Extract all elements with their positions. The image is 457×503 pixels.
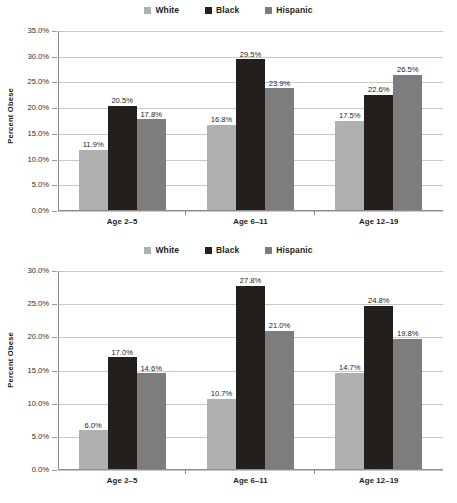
bar-value-label: 22.6% <box>368 86 390 94</box>
y-tick-label: 5.0% <box>14 433 49 441</box>
y-tick-label: 30.0% <box>14 267 49 275</box>
tick-mark <box>52 108 57 109</box>
bar-black-2[interactable]: 27.8% <box>236 286 265 470</box>
tick-mark <box>52 304 57 305</box>
bar-group-1: 11.9%20.5%17.8% <box>58 31 186 211</box>
bar-value-label: 23.9% <box>269 80 291 88</box>
tick-mark <box>52 57 57 58</box>
legend-swatch-icon <box>205 247 212 254</box>
bar-white-2[interactable]: 10.7% <box>207 399 236 470</box>
bar-hispanic-3[interactable]: 26.5% <box>393 75 422 211</box>
plot-area-top: 35.0%30.0%25.0%20.0%15.0%10.0%5.0%0.0%11… <box>14 31 443 211</box>
tick-mark <box>52 271 57 272</box>
tick-mark <box>52 470 57 471</box>
bar-value-label: 27.8% <box>240 277 262 285</box>
legend-label: White <box>155 246 179 255</box>
x-axis-line <box>58 469 443 470</box>
bar-value-label: 16.8% <box>211 116 233 124</box>
tick-mark <box>52 404 57 405</box>
legend-label: Black <box>216 246 239 255</box>
legend-top: WhiteBlackHispanic <box>0 6 457 15</box>
tick-mark <box>52 82 57 83</box>
bar-black-3[interactable]: 24.8% <box>364 306 393 471</box>
tick-mark <box>52 134 57 135</box>
y-tick-label: 15.0% <box>14 367 49 375</box>
tick-mark <box>52 437 57 438</box>
bar-group-2: 10.7%27.8%21.0% <box>186 271 314 470</box>
y-tick-label: 25.0% <box>14 79 49 87</box>
legend-item-hispanic[interactable]: Hispanic <box>265 6 312 15</box>
x-tick-label: Age 6–11 <box>186 218 314 226</box>
bar-group-2: 16.8%29.5%23.9% <box>186 31 314 211</box>
bar-groups: 11.9%20.5%17.8%16.8%29.5%23.9%17.5%22.6%… <box>58 31 443 211</box>
chart-top: WhiteBlackHispanic Percent Obese 35.0%30… <box>0 0 457 245</box>
legend-item-black[interactable]: Black <box>205 246 239 255</box>
y-tick-label: 20.0% <box>14 104 49 112</box>
x-tick-label: Age 12–19 <box>315 218 443 226</box>
y-tick-label: 30.0% <box>14 53 49 61</box>
legend-item-black[interactable]: Black <box>205 6 239 15</box>
bar-white-3[interactable]: 17.5% <box>335 121 364 211</box>
legend-bottom: WhiteBlackHispanic <box>0 246 457 255</box>
gridline <box>58 470 443 471</box>
legend-item-white[interactable]: White <box>144 246 179 255</box>
y-tick-label: 0.0% <box>14 466 49 474</box>
bar-value-label: 11.9% <box>83 141 104 149</box>
legend-item-hispanic[interactable]: Hispanic <box>265 246 312 255</box>
legend-label: Hispanic <box>276 6 312 15</box>
y-tick-label: 5.0% <box>14 181 49 189</box>
y-axis-line <box>58 271 59 470</box>
legend-swatch-icon <box>265 247 272 254</box>
bar-black-3[interactable]: 22.6% <box>364 95 393 211</box>
legend-swatch-icon <box>144 247 151 254</box>
x-tick-label: Age 12–19 <box>315 477 443 485</box>
legend-item-white[interactable]: White <box>144 6 179 15</box>
chart-bottom: WhiteBlackHispanic Percent Obese 30.0%25… <box>0 240 457 503</box>
y-tick-label: 15.0% <box>14 130 49 138</box>
bar-white-2[interactable]: 16.8% <box>207 125 236 211</box>
bar-value-label: 10.7% <box>211 390 233 398</box>
y-tick-label: 0.0% <box>14 207 49 215</box>
bar-black-2[interactable]: 29.5% <box>236 59 265 211</box>
bar-white-1[interactable]: 11.9% <box>79 150 108 211</box>
y-tick-label: 10.0% <box>14 400 49 408</box>
x-axis-line <box>58 210 443 211</box>
bar-black-1[interactable]: 20.5% <box>108 106 137 211</box>
gridline <box>58 211 443 212</box>
bar-value-label: 29.5% <box>240 51 262 59</box>
y-tick-label: 25.0% <box>14 300 49 308</box>
bar-value-label: 20.5% <box>111 97 133 105</box>
y-tick-label: 20.0% <box>14 334 49 342</box>
bar-black-1[interactable]: 17.0% <box>108 357 137 470</box>
x-tick-label: Age 6–11 <box>186 477 314 485</box>
bar-hispanic-2[interactable]: 21.0% <box>265 331 294 470</box>
legend-swatch-icon <box>205 7 212 14</box>
x-tick-label: Age 2–5 <box>58 218 186 226</box>
bar-groups: 6.0%17.0%14.6%10.7%27.8%21.0%14.7%24.8%1… <box>58 271 443 470</box>
bar-white-3[interactable]: 14.7% <box>335 373 364 471</box>
tick-mark <box>52 337 57 338</box>
tick-mark <box>52 31 57 32</box>
bar-hispanic-1[interactable]: 17.8% <box>137 119 166 211</box>
bar-value-label: 14.6% <box>140 365 162 373</box>
bar-value-label: 24.8% <box>368 297 390 305</box>
bar-group-1: 6.0%17.0%14.6% <box>58 271 186 470</box>
legend-swatch-icon <box>265 7 272 14</box>
bar-value-label: 17.0% <box>111 349 133 357</box>
bar-value-label: 26.5% <box>397 66 419 74</box>
bar-value-label: 14.7% <box>339 364 361 372</box>
plot-area-bottom: 30.0%25.0%20.0%15.0%10.0%5.0%0.0%6.0%17.… <box>14 271 443 470</box>
bar-hispanic-3[interactable]: 19.8% <box>393 339 422 470</box>
bar-group-3: 14.7%24.8%19.8% <box>315 271 443 470</box>
y-tick-label: 10.0% <box>14 156 49 164</box>
bar-hispanic-1[interactable]: 14.6% <box>137 373 166 470</box>
x-axis-labels-top: Age 2–5Age 6–11Age 12–19 <box>58 218 443 226</box>
tick-mark <box>52 371 57 372</box>
tick-mark <box>52 185 57 186</box>
bar-hispanic-2[interactable]: 23.9% <box>265 88 294 211</box>
bar-value-label: 19.8% <box>397 330 419 338</box>
bar-value-label: 6.0% <box>85 422 102 430</box>
figure-root: WhiteBlackHispanic Percent Obese 35.0%30… <box>0 0 457 503</box>
bar-white-1[interactable]: 6.0% <box>79 430 108 470</box>
bar-value-label: 17.5% <box>339 112 361 120</box>
